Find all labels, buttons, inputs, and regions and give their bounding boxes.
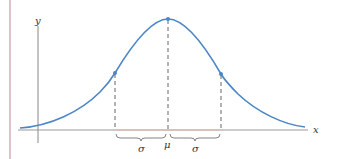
y-axis-label: y <box>34 15 41 26</box>
right-sigma-label: σ <box>192 143 200 154</box>
bell-curve <box>20 19 305 128</box>
normal-distribution-diagram: y x μ σ σ <box>0 0 338 159</box>
mean-label: μ <box>164 139 171 150</box>
left-sigma-label: σ <box>138 143 146 154</box>
x-axis-label: x <box>313 124 319 135</box>
marked-points <box>113 17 223 76</box>
dashed-lines <box>115 20 221 130</box>
